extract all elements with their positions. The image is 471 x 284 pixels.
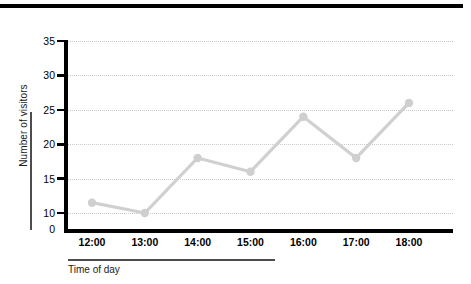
- data-point-1300: [141, 209, 149, 217]
- x-axis-title-rule: [68, 259, 275, 261]
- visitors-line-chart: Number of visitors 0101520253035 12:0013…: [0, 0, 471, 284]
- x-tick-label-1800: 18:00: [396, 236, 423, 248]
- data-point-1600: [299, 112, 307, 120]
- y-tick-label-30: 30: [15, 69, 55, 81]
- y-tick-15: [57, 177, 65, 180]
- y-tick-10: [57, 212, 65, 215]
- data-point-1800: [405, 99, 413, 107]
- y-tick-25: [57, 109, 65, 112]
- x-axis-tick-labels: 12:0013:0014:0015:0016:0017:0018:00: [0, 236, 471, 252]
- x-tick-label-1400: 14:00: [184, 236, 211, 248]
- x-tick-label-1200: 12:00: [79, 236, 106, 248]
- y-tick-label-10: 10: [15, 207, 55, 219]
- y-tick-label-0: 0: [15, 223, 55, 235]
- series-visitors: [68, 41, 453, 229]
- y-tick-35: [57, 40, 65, 43]
- x-tick-label-1300: 13:00: [131, 236, 158, 248]
- x-tick-label-1500: 15:00: [237, 236, 264, 248]
- y-tick-label-25: 25: [15, 104, 55, 116]
- y-axis-line: [64, 40, 68, 230]
- plot-area: [68, 41, 453, 229]
- y-tick-label-35: 35: [15, 35, 55, 47]
- data-point-1400: [193, 154, 201, 162]
- y-tick-30: [57, 74, 65, 77]
- y-tick-label-15: 15: [15, 173, 55, 185]
- data-point-1700: [352, 154, 360, 162]
- data-point-1500: [246, 168, 254, 176]
- x-axis-line: [64, 229, 453, 233]
- y-tick-label-20: 20: [15, 138, 55, 150]
- data-point-1200: [88, 198, 96, 206]
- x-tick-label-1700: 17:00: [343, 236, 370, 248]
- x-axis-title: Time of day: [68, 264, 120, 275]
- x-tick-label-1600: 16:00: [290, 236, 317, 248]
- series-line: [92, 103, 409, 213]
- y-tick-20: [57, 143, 65, 146]
- top-divider-rule: [0, 4, 463, 8]
